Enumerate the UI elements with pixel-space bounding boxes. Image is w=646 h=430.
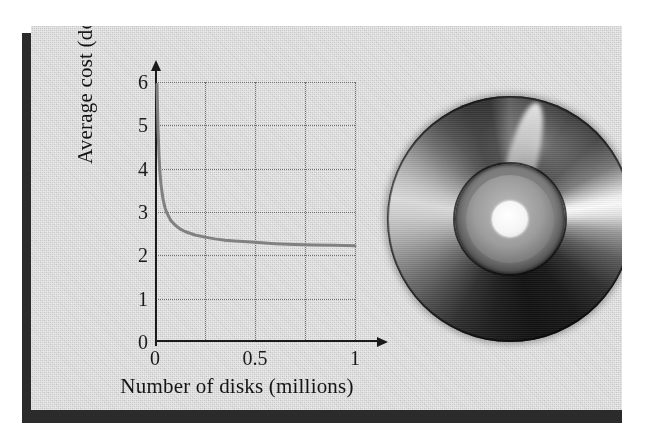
y-tick-label-6: 6 (138, 72, 148, 92)
compact-disc-image (387, 96, 622, 342)
y-tick-label-1: 1 (138, 289, 148, 309)
x-tick-label-0: 0 (150, 348, 160, 368)
y-axis-title: Average cost (dollars) (73, 26, 98, 164)
average-cost-chart: Average cost (dollars) Number of disks (… (77, 52, 387, 392)
y-tick-label-4: 4 (138, 159, 148, 179)
gridline-x-1 (355, 82, 356, 342)
y-tick-label-0: 0 (138, 332, 148, 352)
x-tick-label-0.5: 0.5 (243, 348, 268, 368)
x-axis-title: Number of disks (millions) (89, 374, 385, 399)
y-tick-label-5: 5 (138, 115, 148, 135)
y-tick-label-2: 2 (138, 245, 148, 265)
figure-panel: Average cost (dollars) Number of disks (… (31, 26, 622, 410)
x-tick-label-1: 1 (350, 348, 360, 368)
cost-curve (155, 82, 355, 342)
y-tick-label-3: 3 (138, 202, 148, 222)
plot-area: 6 5 4 3 2 1 0 0 0.5 1 (155, 82, 355, 342)
y-axis-arrow-icon (151, 60, 161, 71)
